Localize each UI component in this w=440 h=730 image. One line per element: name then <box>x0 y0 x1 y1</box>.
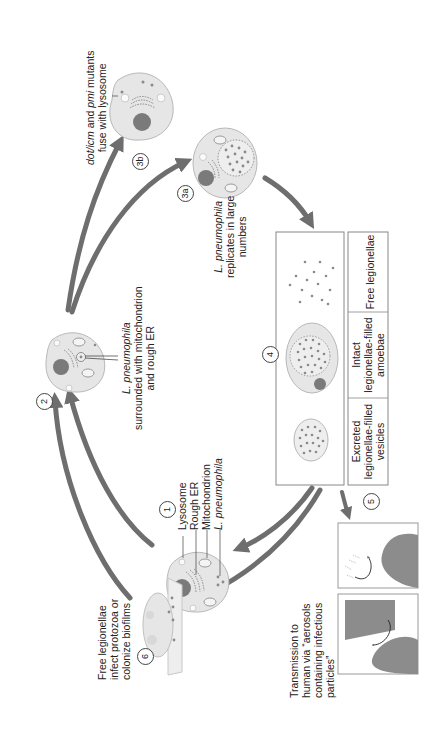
panel-free-legionellae-label: Free legionellae <box>350 232 390 312</box>
cell-2 <box>46 333 118 392</box>
step-2-badge: 2 <box>36 393 53 410</box>
step-3b-caption: dot/icm and pmi mutants fuse with lysoso… <box>84 51 108 165</box>
step-1-badge: 1 <box>159 501 176 518</box>
mitochondrion-icon <box>73 338 85 346</box>
mitochondrion-icon <box>199 559 211 567</box>
nucleus-icon <box>53 359 69 375</box>
mitochondrion-icon <box>214 136 226 144</box>
step-6-caption: Free legionellae infect protozoa or colo… <box>96 599 132 680</box>
step-3a-caption: L. pneumophila replicates in large numbe… <box>212 196 248 278</box>
step-1-legend: Lysosome Rough ER Mitochondrion L. pneum… <box>176 458 224 530</box>
step-2-caption: L. pneumophila surrounded with mitochond… <box>120 286 156 430</box>
arrow-3a-to-4 <box>265 178 310 222</box>
panel-intact-amoebae-label: Intact legionellae-filled amoebae <box>350 312 386 398</box>
nucleus-icon <box>133 113 151 131</box>
cell-3b <box>110 73 173 140</box>
step-4-badge: 4 <box>262 346 279 363</box>
step-5-caption: Transmission to human via “aerosols cont… <box>288 603 336 698</box>
transmission-panels <box>338 523 418 674</box>
mitochondrion-icon <box>204 598 216 606</box>
arrow-4-to-5 <box>342 492 348 514</box>
step-6-badge: 6 <box>137 648 154 665</box>
nucleus-icon <box>198 170 214 186</box>
panel-excreted-vesicles-label: Excreted legionellae-filled vesicles <box>350 398 386 485</box>
step-5-badge: 5 <box>363 493 380 510</box>
mitochondrion-icon <box>82 369 94 377</box>
cell-3a <box>193 128 257 198</box>
step-3b-badge: 3b <box>132 153 149 170</box>
mitochondrion-icon <box>225 184 237 192</box>
step-3a-badge: 3a <box>177 185 194 202</box>
arrow-6-to-2 <box>55 400 130 598</box>
